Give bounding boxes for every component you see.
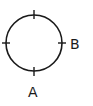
- label-a: A: [28, 84, 38, 100]
- circle-diagram: A B: [0, 0, 93, 106]
- circle: [6, 15, 62, 71]
- label-b: B: [70, 36, 80, 52]
